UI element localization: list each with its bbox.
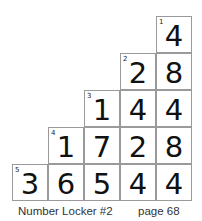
- cell-r2-c5[interactable]: 8: [156, 53, 192, 90]
- cell-r4-c2[interactable]: 4 1: [48, 127, 84, 164]
- page-number: page 68: [138, 205, 180, 217]
- cell-digit: 6: [49, 168, 83, 200]
- cell-r5-c2[interactable]: 6: [48, 164, 84, 201]
- cell-digit: 2: [121, 57, 155, 89]
- cell-digit: 1: [49, 131, 83, 163]
- cell-r4-c5[interactable]: 8: [156, 127, 192, 164]
- cell-r2-c4[interactable]: 2 2: [120, 53, 156, 90]
- number-locker-grid: 1 4 2 2 8 3 1 4 4 4 1 7 2 8 5 3 6 5 4: [12, 16, 193, 202]
- cell-digit: 4: [121, 168, 155, 200]
- cell-r1-c5[interactable]: 1 4: [156, 16, 192, 53]
- cell-digit: 1: [85, 94, 119, 126]
- cell-digit: 5: [85, 168, 119, 200]
- cell-digit: 8: [157, 131, 191, 163]
- cell-digit: 8: [157, 57, 191, 89]
- cell-r5-c1[interactable]: 5 3: [12, 164, 48, 201]
- cell-r4-c3[interactable]: 7: [84, 127, 120, 164]
- cell-r5-c5[interactable]: 4: [156, 164, 192, 201]
- cell-digit: 4: [121, 94, 155, 126]
- cell-r3-c4[interactable]: 4: [120, 90, 156, 127]
- cell-digit: 3: [13, 168, 47, 200]
- cell-r4-c4[interactable]: 2: [120, 127, 156, 164]
- cell-digit: 4: [157, 168, 191, 200]
- cell-digit: 4: [157, 94, 191, 126]
- cell-r3-c3[interactable]: 3 1: [84, 90, 120, 127]
- cell-r5-c3[interactable]: 5: [84, 164, 120, 201]
- cell-digit: 7: [85, 131, 119, 163]
- puzzle-title: Number Locker #2: [18, 205, 113, 217]
- cell-digit: 4: [157, 20, 191, 52]
- cell-digit: 2: [121, 131, 155, 163]
- cell-r5-c4[interactable]: 4: [120, 164, 156, 201]
- cell-r3-c5[interactable]: 4: [156, 90, 192, 127]
